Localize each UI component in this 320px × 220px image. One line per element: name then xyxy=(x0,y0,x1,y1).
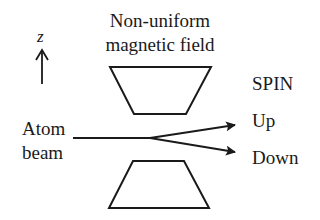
field-title-line1: Non-uniform xyxy=(0,11,320,30)
atom-beam-label-line2: beam xyxy=(22,143,63,162)
atom-beam-label-line1: Atom xyxy=(22,119,65,138)
field-title-line2: magnetic field xyxy=(0,35,320,54)
spin-down-label: Down xyxy=(252,148,298,167)
spin-down-arrow xyxy=(150,138,235,152)
z-axis-arrow-icon xyxy=(36,50,48,84)
magnet-top-pole xyxy=(110,67,211,114)
magnet-bottom-pole xyxy=(109,161,209,208)
spin-up-arrow xyxy=(150,125,235,138)
spin-up-label: Up xyxy=(252,111,275,130)
axis-z-label: z xyxy=(37,28,44,45)
stern-gerlach-diagram: Non-uniform magnetic field z Atom beam S… xyxy=(0,0,320,220)
spin-heading: SPIN xyxy=(252,74,293,93)
